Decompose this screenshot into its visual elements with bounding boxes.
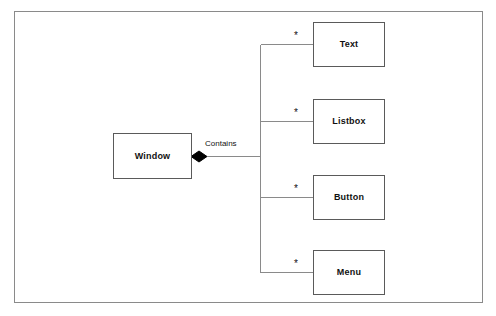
- class-box-window[interactable]: Window: [113, 133, 192, 179]
- class-box-button-label: Button: [334, 193, 364, 202]
- class-box-text[interactable]: Text: [313, 22, 385, 67]
- class-box-menu[interactable]: Menu: [313, 250, 385, 295]
- multiplicity-text: *: [294, 31, 298, 41]
- class-box-button[interactable]: Button: [313, 175, 385, 220]
- diagram-connectors: [0, 0, 496, 316]
- class-box-listbox[interactable]: Listbox: [313, 99, 385, 144]
- class-box-listbox-label: Listbox: [332, 117, 365, 126]
- association-label: Contains: [205, 140, 237, 148]
- multiplicity-listbox: *: [294, 108, 298, 118]
- class-box-window-label: Window: [135, 152, 171, 161]
- multiplicity-button: *: [294, 184, 298, 194]
- multiplicity-menu: *: [294, 259, 298, 269]
- composition-diamond-icon: [191, 151, 207, 162]
- class-box-text-label: Text: [340, 40, 359, 49]
- class-box-menu-label: Menu: [337, 268, 361, 277]
